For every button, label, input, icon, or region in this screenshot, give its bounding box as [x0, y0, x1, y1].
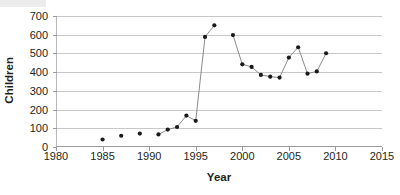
x-tick-label: 1995 — [174, 150, 218, 162]
x-tick-label: 1980 — [34, 150, 78, 162]
gridline-y — [57, 16, 382, 17]
x-tick-label: 1990 — [127, 150, 171, 162]
y-tick-mark — [53, 128, 57, 129]
gridline-y — [57, 72, 382, 73]
x-axis-title: Year — [56, 171, 382, 183]
y-axis-title: Children — [0, 0, 18, 160]
y-tick-label: 400 — [4, 66, 48, 78]
y-tick-mark — [53, 72, 57, 73]
x-tick-label: 2005 — [267, 150, 311, 162]
gridline-y — [57, 53, 382, 54]
y-tick-label: 500 — [4, 47, 48, 59]
y-tick-mark — [53, 91, 57, 92]
y-tick-mark — [53, 16, 57, 17]
gridline-y — [57, 91, 382, 92]
y-tick-mark — [53, 35, 57, 36]
x-tick-label: 2015 — [360, 150, 400, 162]
gridline-y — [57, 35, 382, 36]
x-tick-label: 2000 — [220, 150, 264, 162]
x-tick-label: 2010 — [313, 150, 357, 162]
y-tick-label: 200 — [4, 104, 48, 116]
y-tick-mark — [53, 110, 57, 111]
y-tick-label: 100 — [4, 122, 48, 134]
y-tick-label: 300 — [4, 85, 48, 97]
gridline-y — [57, 110, 382, 111]
y-tick-label: 600 — [4, 29, 48, 41]
gridline-y — [57, 128, 382, 129]
line-chart: Children Year 01002003004005006007001980… — [0, 0, 400, 195]
x-tick-label: 1985 — [81, 150, 125, 162]
plot-area — [56, 16, 382, 147]
y-tick-mark — [53, 53, 57, 54]
y-tick-label: 700 — [4, 10, 48, 22]
